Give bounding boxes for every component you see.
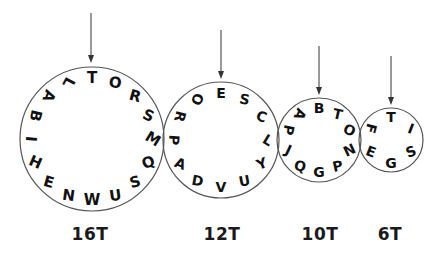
wheel-letter: Y [253,154,270,173]
wheel-letter: T [331,105,344,123]
arrowhead-icon [316,87,322,95]
arrowhead-icon [218,71,224,79]
wheel-10t: BTONPGQJPA [277,46,361,182]
wheel-letter: U [237,172,251,190]
wheel-letter: G [313,164,325,180]
letter-wheels-diagram: TORSMQSUWNEHIBALESCLYUVDAPROBTONPGQJPATI… [0,0,439,258]
wheel-letter: N [341,140,358,159]
wheel-letter: A [291,106,310,122]
wheel-12t: ESCLYUVDAPRO [163,30,279,198]
wheel-6t: TISGEF [359,56,423,172]
wheel-letter: Q [293,157,308,175]
wheel-letter: L [260,131,276,149]
wheel-letter: G [385,155,397,171]
wheel-letter: O [108,73,123,93]
wheel-letter: N [61,186,76,206]
arrowhead-icon [88,55,94,63]
wheel-label-12t: 12T [204,224,241,244]
wheel-letter: D [190,172,204,190]
wheel-letter: O [341,120,359,140]
wheel-letter: E [216,85,226,101]
wheel-label-6t: 6T [378,224,402,244]
wheel-letter: E [42,172,57,192]
wheel-letter: A [38,87,59,104]
arrowhead-icon [388,97,394,105]
wheel-letter: E [364,142,379,160]
wheel-letter: C [254,107,269,126]
wheel-letter: P [166,134,183,145]
wheel-letter: S [127,172,142,192]
wheel-letter: B [26,108,46,123]
wheel-letter: A [172,154,188,173]
wheel-16t: TORSMQSUWNEHIBAL [20,13,164,211]
wheel-letter: T [386,109,396,125]
wheel-letter: H [26,152,45,174]
wheel-letter: P [280,124,298,137]
wheel-letter: S [403,142,418,161]
wheel-letter: I [406,120,417,137]
wheel-letter: L [58,74,79,91]
wheel-letter: Q [139,151,158,173]
wheel-letter: R [127,86,143,107]
wheel-letter: R [171,109,189,124]
wheel-label-10t: 10T [302,224,339,244]
wheel-label-16t: 16T [72,224,109,244]
wheel-letter: S [238,91,251,109]
wheel-letter: U [108,186,123,206]
wheel-letter: M [142,127,164,150]
wheel-letter: P [331,157,345,175]
wheel-letter: I [22,136,40,143]
wheel-letter: J [282,141,294,158]
wheel-letter: S [140,105,157,126]
wheel-letter: O [188,90,208,108]
wheel-letter: B [314,100,325,116]
wheel-letter: W [84,191,101,209]
wheel-letter: F [362,122,380,135]
wheel-letter: V [216,179,227,195]
wheel-letter: T [87,69,98,87]
wheels-canvas: TORSMQSUWNEHIBALESCLYUVDAPROBTONPGQJPATI… [0,0,439,258]
